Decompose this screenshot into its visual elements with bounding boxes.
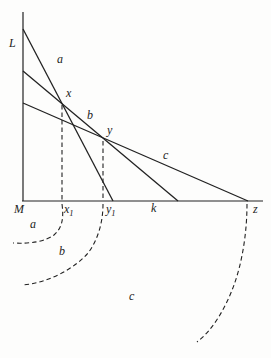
point-label-x: x	[65, 86, 72, 100]
budget-line-c-label: c	[163, 148, 169, 162]
dashed-curve-c-label: c	[129, 289, 135, 303]
figure-background	[0, 0, 271, 358]
origin-label: M	[13, 202, 25, 216]
y-axis-label: L	[8, 36, 16, 50]
budget-lines-indifference-diagram: LMabcxyx1y1kzabc	[0, 0, 271, 358]
budget-line-b-label: b	[87, 108, 93, 122]
textbook-figure-page: LMabcxyx1y1kzabc	[0, 0, 271, 358]
point-label-y: y	[106, 123, 113, 137]
axis-point-label-k: k	[151, 201, 157, 215]
dashed-curve-a-label: a	[30, 217, 36, 231]
budget-line-a-label: a	[57, 52, 63, 66]
dashed-curve-b-label: b	[59, 244, 65, 258]
axis-point-label-z: z	[252, 202, 258, 216]
